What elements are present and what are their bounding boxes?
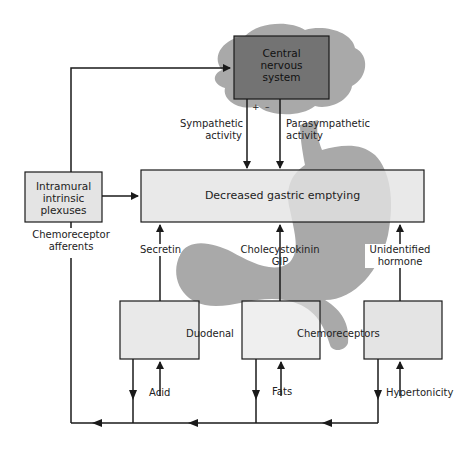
duodenal-label: Duodenal xyxy=(186,328,234,340)
parasympathetic-activity-label: Parasympathetic activity xyxy=(286,118,370,142)
chemoreceptors-label: Chemoreceptors xyxy=(297,328,380,340)
unidentified-hormone-label: Unidentified hormone xyxy=(365,244,435,268)
secretin-label: Secretin xyxy=(140,244,180,256)
sympathetic-activity-label: Sympathetic activity xyxy=(180,118,242,142)
cns-label: Central nervous system xyxy=(234,47,329,83)
fats-label: Fats xyxy=(272,386,292,398)
cholecystokinin-gip-label: Cholecystokinin GIP xyxy=(240,244,320,268)
minus-sign: – xyxy=(265,101,270,113)
chemoreceptor-afferents-label: Chemoreceptor afferents xyxy=(10,229,132,253)
intramural-label: Intramural intrinsic plexuses xyxy=(25,180,102,216)
acid-label: Acid xyxy=(149,387,170,399)
hypertonicity-label: Hypertonicity xyxy=(386,387,453,399)
gastric-emptying-diagram: Central nervous system + – Sympathetic a… xyxy=(0,0,465,450)
plus-sign: + xyxy=(252,101,260,113)
decreased-gastric-emptying-label: Decreased gastric emptying xyxy=(141,190,424,202)
